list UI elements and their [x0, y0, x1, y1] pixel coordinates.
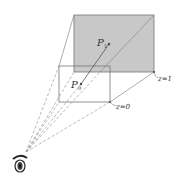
label-p1-sub: 1 [104, 43, 107, 49]
label-p0: P [70, 79, 78, 90]
perspective-diagram: P 1 P 0 z=1 z=0 [0, 0, 184, 188]
label-p0-sub: 0 [78, 85, 81, 91]
point-p1 [108, 43, 110, 45]
diagram-canvas: P 1 P 0 z=1 z=0 [0, 0, 184, 188]
label-z0: z=0 [115, 103, 131, 111]
label-z1: z=1 [157, 75, 172, 83]
label-p1: P [96, 37, 104, 48]
eye-icon [13, 156, 27, 172]
projection-rays [26, 66, 110, 152]
far-plane [74, 15, 154, 72]
